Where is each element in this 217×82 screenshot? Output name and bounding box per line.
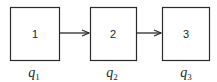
node-2: 2 q2 <box>91 8 137 82</box>
node-label: 1 <box>32 28 38 40</box>
flow-diagram: 1 q1 2 q2 3 q3 <box>0 0 217 81</box>
node-label: 3 <box>183 28 189 40</box>
node-caption: q2 <box>106 65 118 81</box>
edge-1-2 <box>60 30 89 36</box>
node-label: 2 <box>110 28 116 40</box>
node-3: 3 q3 <box>163 8 210 82</box>
edge-2-3 <box>137 30 161 36</box>
node-caption: q1 <box>28 65 40 81</box>
node-caption: q3 <box>180 65 192 81</box>
node-1: 1 q1 <box>11 8 60 82</box>
